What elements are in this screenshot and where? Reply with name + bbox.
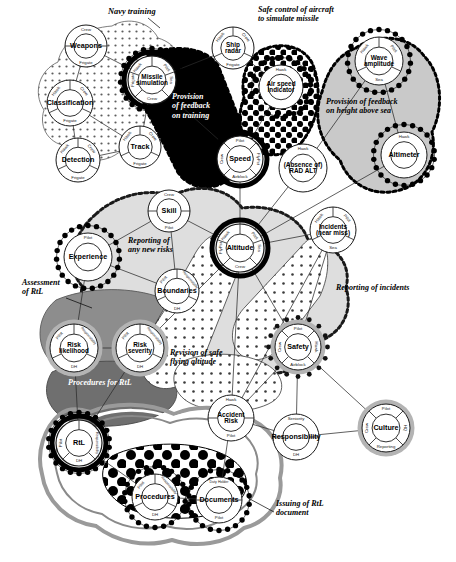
node-safety[interactable]: SafetyPilotCrewHawkAirblock <box>266 315 330 379</box>
node-risk-likelihood[interactable]: RisklikelihoodPilotResponsibilityDH <box>46 320 103 377</box>
node-label-ship-radar: Shipradar <box>225 40 241 54</box>
node-segment-label-procedures-2: DH <box>152 512 158 517</box>
node-speed[interactable]: SpeedPilotCrewFlyPstAirblock <box>213 132 267 186</box>
node-segment-label-responsibility-1: DH <box>293 452 299 457</box>
node-segment-label-safety-3: Airblock <box>290 362 306 367</box>
node-label-rtl: RtL <box>73 438 86 447</box>
diagram-canvas: WeaponsCrewFrigateClassificationHawkCrew… <box>0 0 456 562</box>
node-segment-label-track-2: Frigate <box>133 161 147 166</box>
node-label-track: Track <box>131 142 150 151</box>
node-segment-label-experience-0: Pilot <box>84 235 93 240</box>
node-label-detection: Detection <box>62 155 95 164</box>
node-label-experience: Experience <box>69 252 107 261</box>
node-label-culture: Culture <box>373 423 398 432</box>
node-segment-label-documents-1: Pilot <box>215 515 224 520</box>
node-segment-label-speed-1: Crew <box>219 153 224 164</box>
node-segment-label-documents-0: Duty Holder <box>210 480 230 484</box>
node-segment-label-risk-severity-2: DH <box>137 364 143 369</box>
node-segment-label-rtl-0: Pilot <box>58 438 63 447</box>
node-ship-radar[interactable]: ShipradarHawkCrewFrigate <box>212 27 254 69</box>
node-segment-label-accident-risk-1: Pilot <box>227 433 236 438</box>
node-label-documents: Documents <box>199 495 238 504</box>
node-incidents-near-miss[interactable]: Incidents(near miss)HawkPilotSea <box>310 207 356 253</box>
node-segment-label-rtl-2: DH <box>76 458 82 463</box>
node-label-safety: Safety <box>287 342 309 351</box>
node-absence-of-rad-alt[interactable]: (Absence of)RAD ALTHawk <box>279 144 327 192</box>
annotation-provision-of-feedback-on-height: Provision of feedbackon height above sea <box>326 97 398 115</box>
node-detection[interactable]: DetectionHawkCrewFrigate <box>56 138 100 182</box>
annotation-leader-navy-training <box>148 18 160 28</box>
node-segment-label-speed-3: Airblock <box>232 174 248 179</box>
node-boundaries[interactable]: BoundariesPilotResponsibilityDH <box>155 269 199 313</box>
node-weapons[interactable]: WeaponsCrewFrigate <box>65 25 107 67</box>
rich-picture-svg: WeaponsCrewFrigateClassificationHawkCrew… <box>0 0 456 562</box>
node-segment-label-weapons-0: Crew <box>81 27 92 32</box>
node-risk-severity[interactable]: RiskseverityPilotResponsibilityDH <box>112 320 169 377</box>
node-segment-label-boundaries-2: DH <box>174 306 180 311</box>
node-segment-label-speed-0: Pilot <box>236 138 245 143</box>
node-segment-label-responsibility-0: Seniority <box>288 416 306 421</box>
node-label-weapons: Weapons <box>70 41 102 50</box>
node-label-absence-of-rad-alt: (Absence of)RAD ALT <box>284 160 323 174</box>
node-track[interactable]: TrackHawkCrewFrigate <box>119 126 161 168</box>
node-segment-label-altimeter-0: Hawk <box>399 134 411 139</box>
node-segment-label-missile-simulation-3: Sea <box>169 76 174 84</box>
node-segment-label-accident-risk-0: Hawk <box>226 397 238 402</box>
node-segment-label-rtl-1: Responsibility <box>95 432 99 454</box>
annotation-procedures-for-rtl: Procedures for RtL <box>68 378 132 387</box>
node-skill[interactable]: SkillCrewPilot <box>148 190 190 232</box>
node-label-procedures: Procedures <box>135 492 175 501</box>
node-segment-label-culture-0: Pilot <box>382 406 391 411</box>
node-altitude[interactable]: AltitudeHawkPilotFlyPstSeaCrew <box>212 220 268 276</box>
annotation-issuing-of-rtl-document: Issuing of RtLdocument <box>275 499 324 517</box>
node-label-boundaries: Boundaries <box>157 286 197 295</box>
annotation-reporting-of-any-new-risks: Reporting ofany new risks <box>127 236 173 254</box>
node-accident-risk[interactable]: AccidentRiskHawkPilot <box>208 395 254 441</box>
node-segment-label-missile-simulation-2: Frigate <box>130 73 135 87</box>
node-label-incidents-near-miss: Incidents(near miss) <box>316 222 350 237</box>
node-segment-label-risk-likelihood-2: DH <box>71 364 77 369</box>
node-classification[interactable]: ClassificationHawkCrewFrigate <box>47 80 94 126</box>
node-label-speed: Speed <box>229 154 251 163</box>
node-label-air-speed-indicator: Air speedindicator <box>266 79 295 93</box>
node-label-skill: Skill <box>162 206 177 215</box>
node-segment-label-wave-amplitude-2: Sea <box>375 77 383 82</box>
node-segment-label-safety-1: Crew <box>277 341 282 352</box>
node-segment-label-incidents-near-miss-2: Sea <box>329 245 337 250</box>
node-segment-label-ship-radar-2: Frigate <box>226 62 240 67</box>
annotation-navy-training: Navy training <box>107 7 156 16</box>
node-label-responsibility: Responsibility <box>271 432 320 441</box>
node-segment-label-safety-2: Hawk <box>314 342 319 354</box>
node-segment-label-culture-3: Reporting <box>377 444 396 449</box>
node-label-altitude: Altitude <box>227 243 254 252</box>
node-segment-label-speed-2: FlyPst <box>256 153 261 166</box>
node-segment-label-culture-1: Crew <box>364 422 369 433</box>
node-segment-label-classification-2: Frigate <box>63 118 77 123</box>
node-segment-label-altitude-3: Sea <box>257 244 262 252</box>
node-segment-label-weapons-1: Frigate <box>79 60 93 65</box>
node-segment-label-culture-2: HQ <box>403 425 408 432</box>
node-segment-label-altitude-2: FlyPst <box>218 241 223 254</box>
node-culture[interactable]: CulturePilotCrewHQReporting <box>358 400 415 457</box>
node-segment-label-absence-of-rad-alt-0: Hawk <box>298 146 310 151</box>
node-segment-label-detection-2: Frigate <box>71 175 85 180</box>
node-segment-label-skill-1: Pilot <box>165 225 174 230</box>
annotation-reporting-of-incidents: Reporting of incidents <box>335 283 409 292</box>
annotation-safe-control-of-aircraft: Safe control of aircraftto simulate miss… <box>258 5 335 23</box>
node-label-altimeter: Altimeter <box>388 150 419 159</box>
node-segment-label-safety-0: Pilot <box>294 326 303 331</box>
node-segment-label-air-speed-indicator-0: Hawk <box>276 67 288 72</box>
annotation-assessment-of-rtl: Assessmentof RtL <box>21 278 61 296</box>
annotation-revision-of-safe-flying-altitude: Revision of safeflying altitude <box>169 348 223 366</box>
annotation-leader-issuing-of-rtl-document <box>248 498 274 512</box>
node-segment-label-altitude-4: Crew <box>235 264 246 269</box>
node-segment-label-skill-0: Crew <box>164 192 175 197</box>
node-segment-label-missile-simulation-4: Crew <box>147 96 158 101</box>
node-label-classification: Classification <box>47 98 94 107</box>
